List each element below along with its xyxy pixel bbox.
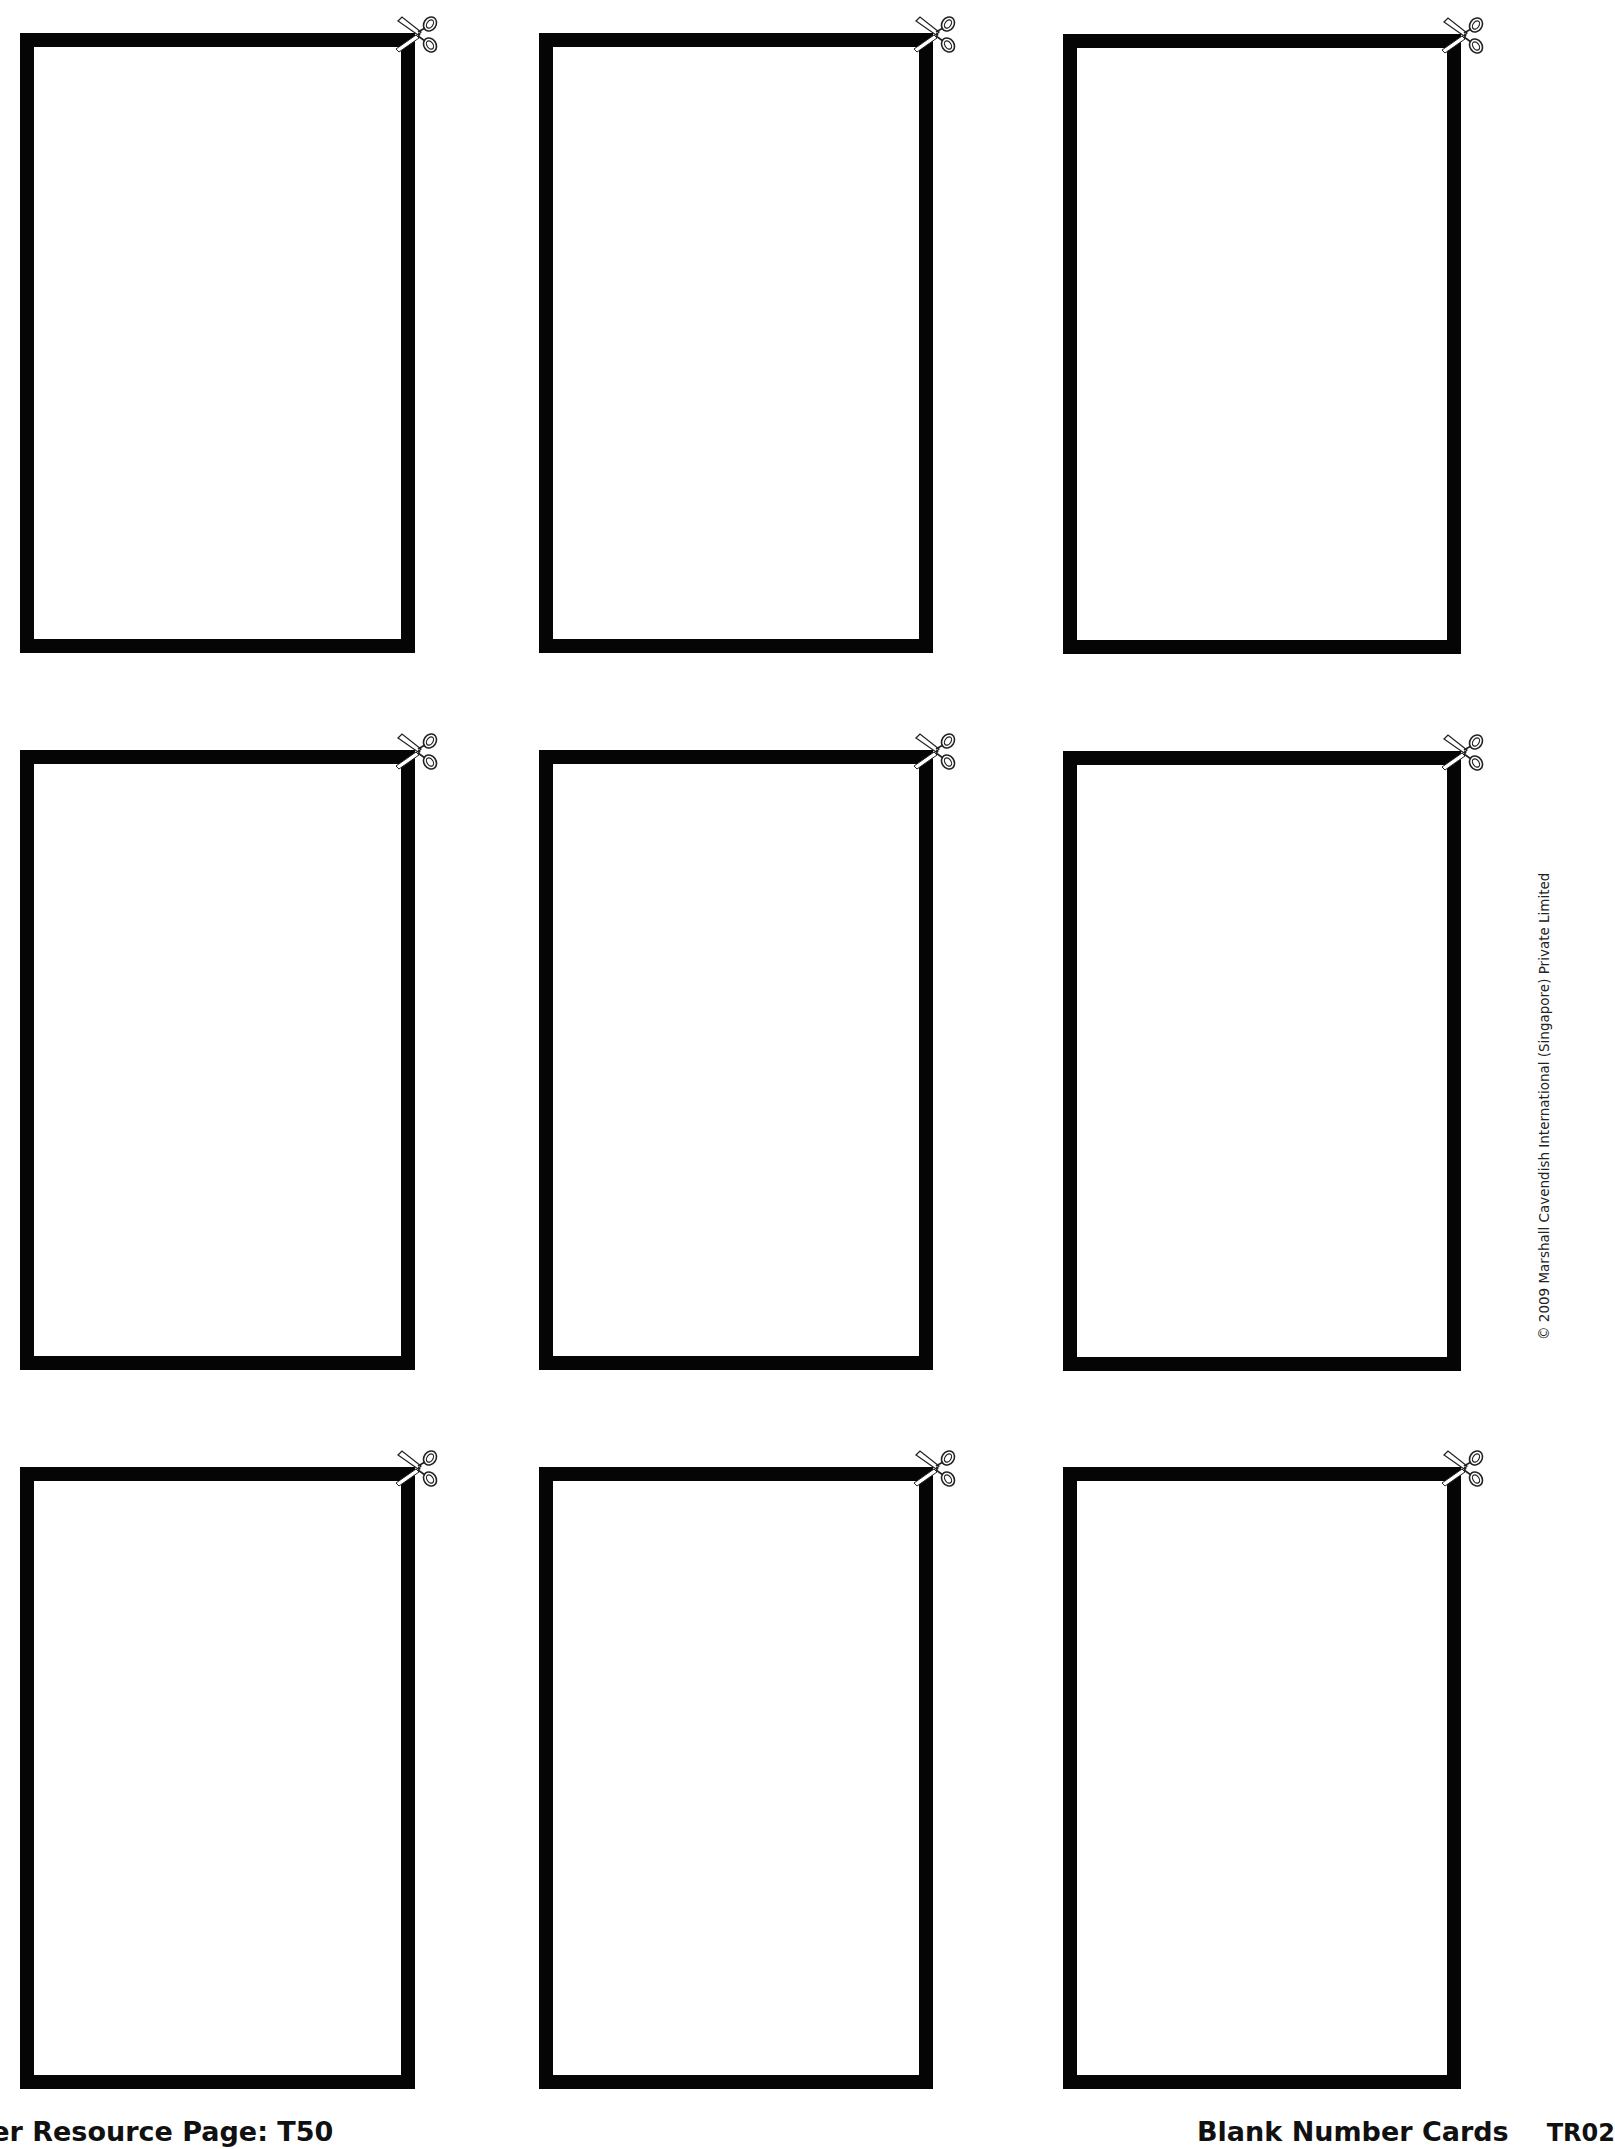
scissors-icon xyxy=(914,1449,958,1489)
blank-card-r3-c2 xyxy=(539,1467,933,2089)
blank-card-r3-c3 xyxy=(1063,1467,1461,2089)
scissors-icon xyxy=(1442,733,1486,773)
footer-resource-page: her Resource Page: T50 xyxy=(0,2116,333,2148)
blank-card-r1-c1 xyxy=(20,33,415,653)
scissors-icon xyxy=(914,732,958,772)
footer-left-text: her Resource Page: T50 xyxy=(0,2116,333,2147)
scissors-icon xyxy=(1442,16,1486,56)
scissors-icon xyxy=(1442,1449,1486,1489)
page-code: TR02 xyxy=(1547,2119,1615,2147)
blank-card-r1-c3 xyxy=(1063,34,1461,654)
scissors-icon xyxy=(396,1449,440,1489)
blank-card-r3-c1 xyxy=(20,1467,415,2089)
blank-card-r2-c3 xyxy=(1063,751,1461,1371)
scissors-icon xyxy=(396,15,440,55)
blank-card-r1-c2 xyxy=(539,33,933,653)
blank-card-r2-c1 xyxy=(20,750,415,1370)
page-title: Blank Number Cards xyxy=(1197,2116,1509,2147)
copyright-notice: © 2009 Marshall Cavendish International … xyxy=(1536,870,1552,1340)
blank-card-r2-c2 xyxy=(539,750,933,1370)
scissors-icon xyxy=(396,732,440,772)
footer-title: Blank Number CardsTR02 xyxy=(1197,2116,1615,2149)
scissors-icon xyxy=(914,15,958,55)
